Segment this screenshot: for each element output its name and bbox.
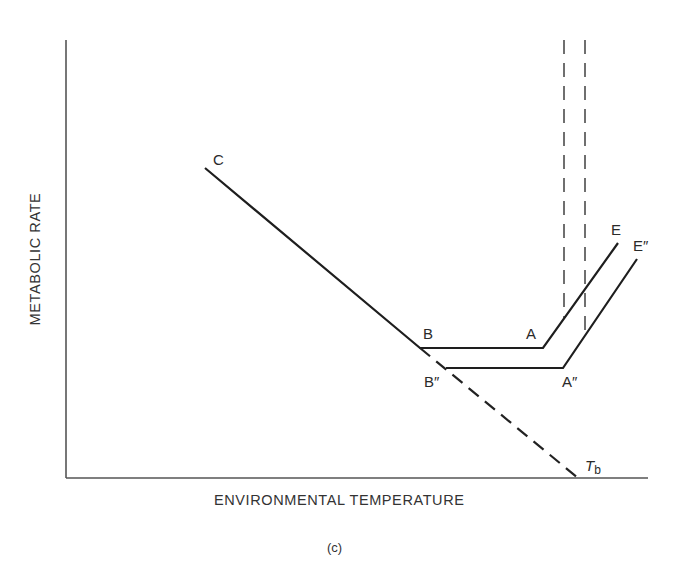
x-axis-label: ENVIRONMENTAL TEMPERATURE (214, 493, 465, 508)
label-a-double-prime: A″ (562, 374, 577, 389)
label-a: A (526, 326, 536, 341)
curve-b2a2e2 (446, 259, 637, 368)
figure-caption: (c) (327, 540, 342, 555)
label-tb: Tb (585, 458, 601, 476)
label-b-double-prime: B″ (424, 374, 439, 389)
label-e-double-prime: E″ (633, 238, 648, 253)
label-tb-subscript: b (594, 463, 601, 477)
label-c: C (213, 152, 224, 167)
curve-cbae (205, 168, 618, 348)
label-e: E (611, 222, 621, 237)
metabolic-rate-diagram (0, 0, 680, 565)
label-b: B (423, 326, 433, 341)
y-axis-label: METABOLIC RATE (27, 193, 43, 326)
label-tb-main: T (585, 457, 594, 474)
